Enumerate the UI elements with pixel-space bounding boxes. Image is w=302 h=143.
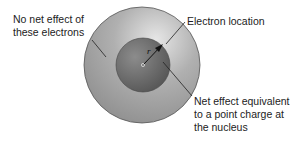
label-line: Net effect equivalent (194, 95, 290, 108)
label-line: the nucleus (194, 121, 290, 134)
radius-label: r (147, 46, 151, 56)
label-line: to a point charge at (194, 108, 290, 121)
label-electron-location: Electron location (187, 15, 265, 28)
label-line: No net effect of (13, 13, 84, 26)
label-no-net-effect: No net effect of these electrons (13, 13, 84, 39)
label-line: these electrons (13, 26, 84, 39)
label-net-effect: Net effect equivalent to a point charge … (194, 95, 290, 134)
